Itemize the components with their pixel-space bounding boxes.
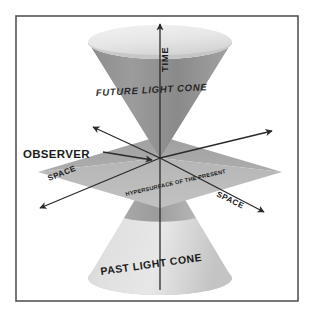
light-cone-figure: TIME FUTURE LIGHT CONE OBSERVER SPACE SP… — [0, 0, 316, 320]
light-cone-diagram: TIME FUTURE LIGHT CONE OBSERVER SPACE SP… — [0, 0, 316, 320]
observer-label: OBSERVER — [23, 148, 90, 160]
time-axis-label: TIME — [159, 47, 170, 72]
